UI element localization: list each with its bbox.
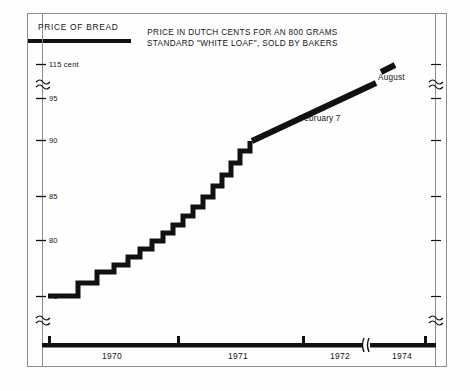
chart-title-line-1: PRICE IN DUTCH CENTS FOR AN 800 GRAMS <box>135 29 350 37</box>
corner-label: PRICE OF BREAD <box>38 23 119 31</box>
chart-title-line-2: STANDARD "WHITE LOAF", SOLD BY BAKERS <box>135 40 350 48</box>
x-tick-1974 <box>424 336 427 344</box>
xtick-label-1970: 1970 <box>102 352 122 361</box>
x-tick-1970 <box>48 336 51 344</box>
price-diagonal-segment <box>252 83 376 141</box>
x-tick-1971 <box>177 336 180 344</box>
x-axis-bar-left <box>42 343 363 348</box>
x-tick-1972 <box>302 336 305 344</box>
ytick-label-85: 85 <box>49 193 58 201</box>
xtick-label-1974: 1974 <box>392 352 412 361</box>
x-axis-break <box>363 338 370 352</box>
figure-frame <box>28 14 447 367</box>
price-step-series <box>48 141 250 296</box>
corner-label-rule <box>28 39 131 43</box>
annotation-august: August <box>378 74 405 82</box>
chart-figure: PRICE OF BREAD PRICE IN DUTCH CENTS FOR … <box>0 0 470 391</box>
chart-canvas <box>0 0 470 391</box>
xtick-label-1972: 1972 <box>330 352 350 361</box>
annotation-february-7: February 7 <box>299 115 341 123</box>
ytick-label-90: 90 <box>49 137 58 145</box>
xtick-label-1971: 1971 <box>228 352 248 361</box>
ytick-label-115: 115 cent <box>49 61 79 69</box>
ytick-label-95: 95 <box>49 95 58 103</box>
ytick-label-75: 75 <box>49 293 58 301</box>
ytick-label-80: 80 <box>49 237 58 245</box>
price-terminal-dash <box>381 65 395 72</box>
